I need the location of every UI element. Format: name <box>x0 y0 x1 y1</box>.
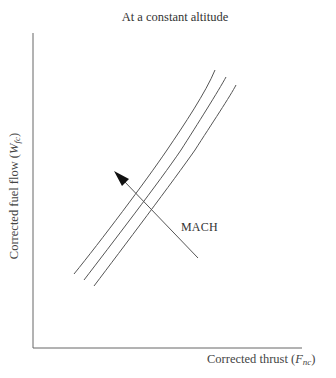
fuel-flow-curve-2 <box>84 77 226 280</box>
fuel-flow-curve-3 <box>94 85 236 286</box>
plot-area <box>0 0 336 378</box>
fuel-flow-curve-1 <box>74 70 215 274</box>
mach-label: MACH <box>181 220 218 235</box>
